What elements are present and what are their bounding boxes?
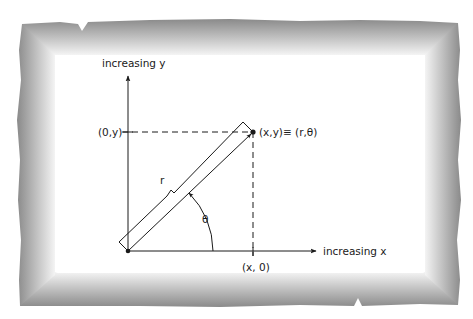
torn-paper-frame (17, 19, 461, 307)
frame-bottom (20, 272, 458, 307)
point-label: (x,y)≡ (r,θ) (259, 126, 317, 138)
radius-label: r (160, 174, 165, 186)
origin-point (126, 249, 131, 254)
x-intercept-label: (x, 0) (242, 261, 270, 273)
polar-point (250, 129, 255, 134)
y-axis-label: increasing y (102, 57, 166, 69)
inner-panel (55, 55, 425, 273)
diagram-svg: increasing y increasing x (0,y) (x, 0) (… (0, 0, 473, 319)
y-intercept-label: (0,y) (98, 126, 122, 138)
diagram-canvas: increasing y increasing x (0,y) (x, 0) (… (0, 0, 473, 319)
frame-left (17, 24, 55, 306)
frame-top (22, 19, 458, 55)
angle-label: θ (202, 213, 208, 225)
frame-right (425, 23, 461, 305)
x-axis-label: increasing x (323, 245, 387, 257)
